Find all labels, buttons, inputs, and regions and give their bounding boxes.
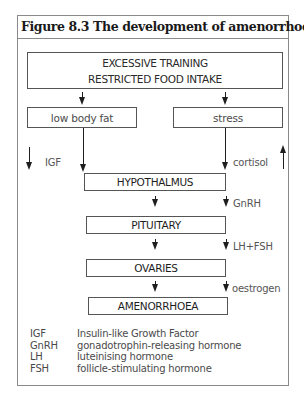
abbreviation-legend: IGF Insulin-like Growth Factor GnRH gona… (30, 328, 241, 374)
legend-meaning: luteinising hormone (77, 351, 173, 363)
igf-label: IGF (45, 157, 61, 168)
legend-meaning: gonadotrophin-releasing hormone (77, 340, 241, 352)
arrow-down-icon (152, 242, 158, 250)
arrow-down-icon (79, 97, 85, 105)
legend-meaning: follicle-stimulating hormone (77, 363, 212, 375)
arrow-down-icon (223, 199, 229, 207)
legend-meaning: Insulin-like Growth Factor (77, 328, 198, 340)
box-amenorrhoea: AMENORRHOEA (88, 297, 228, 315)
top-box-line1: EXCESSIVE TRAINING (88, 55, 222, 71)
box-low-body-fat: low body fat (27, 107, 137, 128)
cortisol-label: cortisol (233, 157, 268, 168)
arrow-down-icon (152, 199, 158, 207)
legend-abbr: GnRH (30, 340, 77, 352)
arrow-down-icon (152, 284, 158, 292)
arrow-down-icon (223, 284, 229, 292)
arrow-down-icon (223, 242, 229, 250)
low-body-fat-label: low body fat (51, 112, 113, 124)
cortisol-indicator-shaft (283, 152, 284, 169)
stress-label: stress (213, 112, 243, 124)
arrow-down-icon (222, 162, 228, 170)
top-box-line2: RESTRICTED FOOD INTAKE (88, 71, 222, 87)
hypothalamus-label: HYPOTHALMUS (117, 176, 193, 188)
oestrogen-label: oestrogen (232, 283, 280, 294)
ovaries-label: OVARIES (134, 262, 177, 274)
legend-row: IGF Insulin-like Growth Factor (30, 328, 241, 340)
amenorrhoea-label: AMENORRHOEA (118, 300, 198, 312)
arrow-down-icon (222, 97, 228, 105)
legend-abbr: FSH (30, 363, 77, 375)
legend-row: FSH follicle-stimulating hormone (30, 363, 241, 375)
lh-fsh-label: LH+FSH (233, 241, 273, 252)
arrow-down-icon (80, 164, 86, 172)
box-ovaries: OVARIES (86, 259, 226, 277)
igf-indicator-shaft (29, 147, 30, 163)
arrow-low-body-fat-to-hypothalamus-shaft (83, 128, 84, 165)
igf-down-arrow-icon (26, 162, 32, 170)
legend-abbr: LH (30, 351, 77, 363)
arrow-stress-to-hypothalamus-shaft (225, 128, 226, 163)
box-excessive-training: EXCESSIVE TRAINING RESTRICTED FOOD INTAK… (27, 52, 283, 89)
box-stress: stress (173, 107, 283, 128)
gnrh-label: GnRH (233, 198, 261, 209)
box-pituitary: PITUITARY (86, 216, 226, 234)
pituitary-label: PITUITARY (131, 219, 181, 231)
box-hypothalamus: HYPOTHALMUS (84, 173, 226, 191)
legend-abbr: IGF (30, 328, 77, 340)
legend-row: LH luteinising hormone (30, 351, 241, 363)
figure-title: Figure 8.3 The development of amenorrhoe… (21, 19, 304, 34)
legend-row: GnRH gonadotrophin-releasing hormone (30, 340, 241, 352)
